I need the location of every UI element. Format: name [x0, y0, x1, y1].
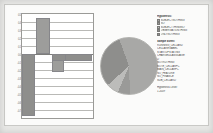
pie-chart [98, 35, 160, 97]
y-tick-label: -0.3 [9, 77, 21, 82]
legend-swatch-icon [157, 33, 160, 36]
gridline [22, 46, 93, 47]
y-tick-label: -0.2 [9, 69, 21, 74]
legend-swatch-icon [157, 26, 160, 29]
y-tick-label: 0.5 [9, 13, 21, 18]
bar-chart: 0.5 0.4 0.3 0.2 0.1 0.0 -0.1 -0.2 -0.3 -… [8, 11, 96, 123]
screenshot-root: 0.5 0.4 0.3 0.2 0.1 0.0 -0.1 -0.2 -0.3 -… [0, 0, 213, 133]
y-tick-label: -0.4 [9, 85, 21, 90]
gridline [22, 30, 93, 31]
bar-5[interactable] [65, 54, 92, 61]
y-tick-label: -0.1 [9, 61, 21, 66]
bar-chart-y-axis: 0.5 0.4 0.3 0.2 0.1 0.0 -0.1 -0.2 -0.3 -… [8, 13, 21, 119]
gridline [22, 38, 93, 39]
y-tick-label: 0.2 [9, 37, 21, 42]
y-tick-label: -0.7 [9, 109, 21, 114]
y-tick-label: 0.3 [9, 29, 21, 34]
y-tick-label: 0.4 [9, 21, 21, 26]
pie-chart-disc[interactable] [100, 37, 158, 95]
bar-2[interactable] [36, 18, 50, 54]
legend-block-sample-event: Sample Event: RUNNING_CELLARD CELLAREGAB… [157, 40, 213, 82]
gridline [22, 22, 93, 23]
y-tick-label: 0.0 [9, 53, 21, 58]
legend-item-label: ONLYNOTHING [161, 33, 213, 37]
sample-event-line: SUB_CELLARD [157, 79, 213, 83]
bar-1[interactable] [22, 54, 35, 116]
legend-swatch-icon [157, 29, 160, 32]
legend-item[interactable]: ONLYNOTHING [157, 33, 213, 37]
report-canvas: 0.5 0.4 0.3 0.2 0.1 0.0 -0.1 -0.2 -0.3 -… [4, 4, 209, 126]
legend-block-level: Hypothesis Level: 1.2009 [157, 86, 213, 93]
bar-chart-plot-area [21, 13, 94, 119]
y-tick-label: -0.6 [9, 101, 21, 106]
y-tick-label: -0.5 [9, 93, 21, 98]
legend-block-hypothesis: Hypothesis: SUBJECTNOTHING NO SUBJECTTHI… [157, 15, 213, 36]
y-tick-label: 0.1 [9, 45, 21, 50]
level-value: 1.2009 [157, 90, 213, 94]
legend-panel: Hypothesis: SUBJECTNOTHING NO SUBJECTTHI… [157, 15, 213, 121]
legend-swatch-icon [157, 19, 160, 22]
legend-swatch-icon [157, 22, 160, 25]
